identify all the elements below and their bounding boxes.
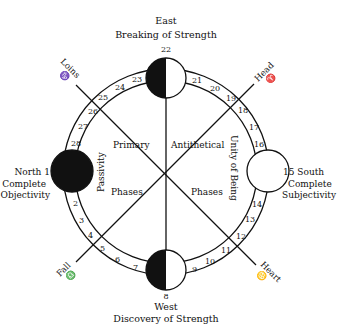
unity-of-being-label: Unity of Being: [229, 135, 239, 201]
phase-20: 20: [210, 84, 220, 93]
north-label: North 1: [14, 167, 50, 177]
primary-label: Primary: [113, 140, 150, 150]
south-line3: Subjectivity: [282, 190, 337, 200]
west-subtitle: Discovery of Strength: [113, 313, 218, 324]
north-dark-circle: [51, 150, 93, 192]
phase-25: 25: [98, 93, 108, 102]
phase-14: 14: [252, 200, 262, 209]
phase-17: 17: [249, 123, 259, 132]
phase-6: 6: [115, 255, 120, 264]
phase-18: 18: [238, 106, 248, 115]
phase-21: 21: [192, 76, 202, 85]
phase-16: 16: [254, 140, 264, 149]
west-number: 8: [163, 292, 168, 301]
east-subtitle: Breaking of Strength: [115, 29, 217, 40]
phase-13: 13: [245, 215, 255, 224]
phase-19: 19: [226, 94, 236, 103]
phase-12: 12: [236, 232, 246, 241]
phase-27: 27: [78, 122, 88, 131]
north-line2: Complete: [2, 179, 46, 189]
south-line2: Complete: [288, 179, 332, 189]
phase-5: 5: [100, 244, 105, 253]
great-wheel-diagram: East Breaking of Strength 22 8 West Disc…: [0, 0, 340, 333]
south-label: 15 South: [283, 167, 324, 177]
phase-23: 23: [132, 75, 142, 84]
phases-right-label: Phases: [191, 187, 223, 197]
phase-10: 10: [205, 257, 215, 266]
east-moon-circle: [146, 58, 186, 98]
phase-9: 9: [192, 265, 197, 274]
east-number: 22: [161, 45, 171, 54]
phase-24: 24: [115, 83, 125, 92]
antithetical-label: Antithetical: [170, 140, 224, 150]
north-line3: Objectivity: [1, 190, 51, 200]
phase-26: 26: [88, 107, 98, 116]
phases-left-label: Phases: [111, 187, 143, 197]
phase-3: 3: [79, 216, 84, 225]
phase-7: 7: [133, 263, 138, 272]
passivity-label: Passivity: [96, 151, 106, 192]
phase-4: 4: [88, 231, 93, 240]
west-moon-circle: [146, 250, 186, 290]
east-heading: East: [155, 15, 176, 26]
phase-11: 11: [221, 246, 231, 255]
phase-28: 28: [71, 139, 81, 148]
west-heading: West: [154, 301, 177, 312]
phase-2: 2: [73, 199, 78, 208]
